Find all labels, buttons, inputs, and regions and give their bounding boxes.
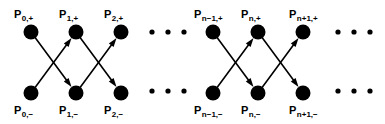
label-Pn+1+: Pn+1,+ xyxy=(289,8,318,23)
node-P1- xyxy=(69,86,84,101)
label-base: P xyxy=(14,104,21,116)
ellipsis-mid-top xyxy=(149,29,186,34)
label-P0-: P0,− xyxy=(14,104,34,119)
label-subscript: n−1,+ xyxy=(202,14,223,23)
node-Pn-1- xyxy=(206,86,221,101)
label-base: P xyxy=(194,8,201,20)
label-Pn+: Pn,+ xyxy=(241,8,261,23)
label-subscript: n,+ xyxy=(249,14,261,23)
node-Pn+ xyxy=(251,25,266,40)
label-base: P xyxy=(59,8,66,20)
ellipsis-dot-2 xyxy=(351,88,356,93)
ellipsis-dot-1 xyxy=(335,29,340,34)
label-base: P xyxy=(104,104,111,116)
label-base: P xyxy=(289,104,296,116)
ellipsis-dot-1 xyxy=(149,29,154,34)
edge-line xyxy=(217,38,249,81)
label-P1-: P1,− xyxy=(59,104,79,119)
node-Pn+1+ xyxy=(296,25,311,40)
figure-canvas: P0,+P1,+P2,+P0,−P1,−P2,−Pn−1,+Pn,+Pn+1,+… xyxy=(0,0,385,124)
label-subscript: 2,+ xyxy=(112,14,124,23)
label-P1+: P1,+ xyxy=(59,8,79,23)
ellipsis-dot-2 xyxy=(351,29,356,34)
edge-line xyxy=(35,43,67,86)
ellipsis-dot-3 xyxy=(367,88,372,93)
label-subscript: n+1,+ xyxy=(297,14,318,23)
label-subscript: 0,+ xyxy=(22,14,34,23)
label-P0+: P0,+ xyxy=(14,8,34,23)
ellipsis-dot-3 xyxy=(367,29,372,34)
node-P2+ xyxy=(114,25,129,40)
ellipsis-dot-3 xyxy=(181,88,186,93)
ellipsis-dot-3 xyxy=(181,29,186,34)
edge-line xyxy=(80,43,112,86)
ellipsis-dot-2 xyxy=(165,29,170,34)
label-base: P xyxy=(241,8,248,20)
node-P2- xyxy=(114,86,129,101)
label-Pn-: Pn,− xyxy=(241,104,261,119)
node-Pn- xyxy=(251,86,266,101)
label-P2+: P2,+ xyxy=(104,8,124,23)
label-Pn-1+: Pn−1,+ xyxy=(194,8,223,23)
edge-line xyxy=(35,38,67,81)
label-Pn-1-: Pn−1,− xyxy=(194,104,223,119)
node-Pn-1+ xyxy=(206,25,221,40)
edge-line xyxy=(262,38,294,81)
label-subscript: n,− xyxy=(249,110,261,119)
ellipsis-mid-bottom xyxy=(149,88,186,93)
label-Pn+1-: Pn+1,− xyxy=(289,104,318,119)
ellipsis-right-top xyxy=(335,29,372,34)
edge-line xyxy=(217,43,249,86)
ellipsis-dot-2 xyxy=(165,88,170,93)
label-subscript: 1,− xyxy=(67,110,79,119)
label-subscript: n+1,− xyxy=(297,110,318,119)
ellipsis-dot-1 xyxy=(149,88,154,93)
ellipsis-dot-1 xyxy=(335,88,340,93)
ellipsis-right-bottom xyxy=(335,88,372,93)
label-base: P xyxy=(59,104,66,116)
node-Pn+1- xyxy=(296,86,311,101)
edge-line xyxy=(262,43,294,86)
label-base: P xyxy=(241,104,248,116)
lattice-diagram: P0,+P1,+P2,+P0,−P1,−P2,−Pn−1,+Pn,+Pn+1,+… xyxy=(0,0,385,124)
label-P2-: P2,− xyxy=(104,104,124,119)
label-base: P xyxy=(289,8,296,20)
label-subscript: 1,+ xyxy=(67,14,79,23)
label-subscript: 0,− xyxy=(22,110,34,119)
node-P0+ xyxy=(24,25,39,40)
labels-layer: P0,+P1,+P2,+P0,−P1,−P2,−Pn−1,+Pn,+Pn+1,+… xyxy=(14,8,318,119)
label-base: P xyxy=(14,8,21,20)
label-subscript: n−1,− xyxy=(202,110,223,119)
edges-layer xyxy=(35,38,298,87)
node-P0- xyxy=(24,86,39,101)
node-P1+ xyxy=(69,25,84,40)
label-base: P xyxy=(194,104,201,116)
label-subscript: 2,− xyxy=(112,110,124,119)
ellipsis-layer xyxy=(149,29,372,93)
edge-line xyxy=(80,38,112,81)
label-base: P xyxy=(104,8,111,20)
